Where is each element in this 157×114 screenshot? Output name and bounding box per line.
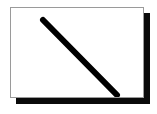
figure-canvas [0,0,157,114]
white-card-panel[interactable] [10,7,144,98]
diagonal-line-graphic [11,8,144,98]
diagonal-line-stroke [43,20,117,95]
